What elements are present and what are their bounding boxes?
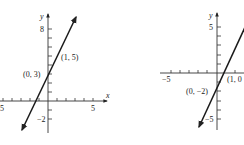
- left-graph: y x 8 −2 5 5 (0, 3) (1, 5): [0, 12, 110, 133]
- left-y-tick-label-neg2: −2: [37, 115, 46, 124]
- right-y-axis-label: y: [208, 11, 213, 20]
- left-point-label-0-3: (0, 3): [23, 70, 41, 79]
- right-graph: y 5 −5 −5 (0, −2) (1, 0: [160, 11, 244, 130]
- left-point-label-1-5: (1, 5): [61, 53, 79, 62]
- left-y-axis-label: y: [39, 12, 44, 21]
- right-y-tick-label-neg5: −5: [205, 115, 214, 124]
- graphs-canvas: y x 8 −2 5 5 (0, 3) (1, 5): [0, 0, 244, 145]
- right-point-label-1-0: (1, 0: [227, 75, 242, 84]
- left-x-axis-label: x: [105, 91, 110, 100]
- left-x-tick-label-neg5: 5: [0, 104, 4, 113]
- right-point-label-0-neg2: (0, −2): [186, 87, 208, 96]
- left-y-tick-label-8: 8: [40, 25, 44, 34]
- right-x-tick-label-neg5: −5: [162, 75, 171, 84]
- left-x-tick-label-5: 5: [91, 104, 95, 113]
- right-y-tick-label-5: 5: [209, 23, 213, 32]
